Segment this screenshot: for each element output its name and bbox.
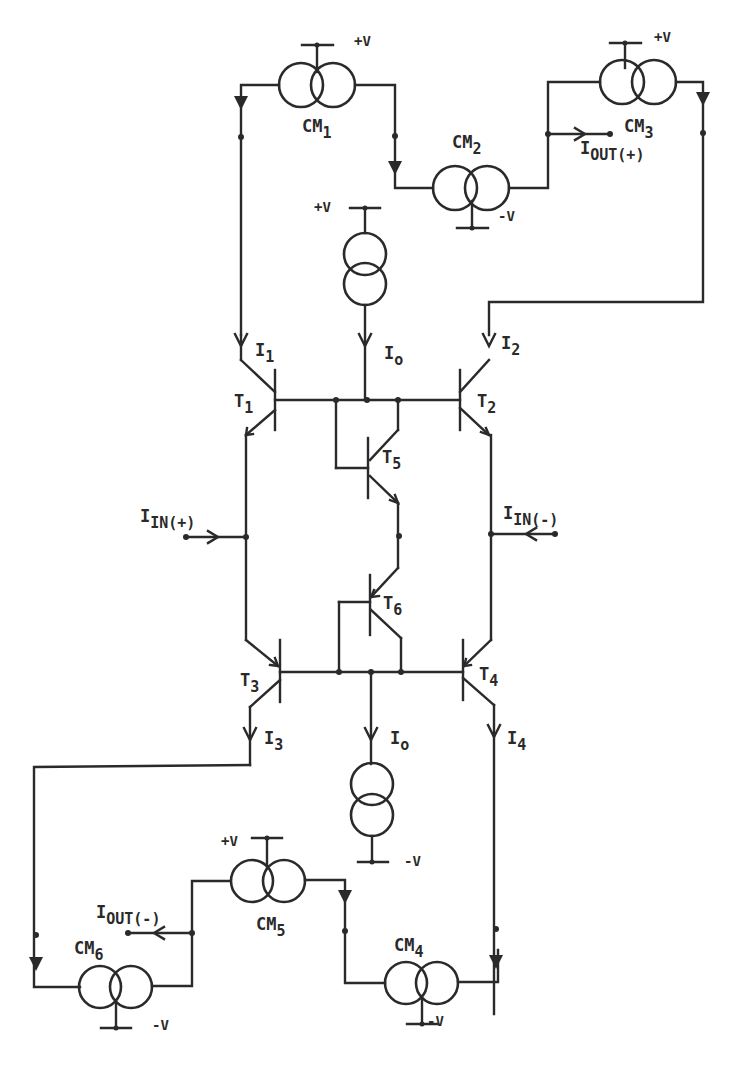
cm5-supply-label: +V — [221, 834, 238, 848]
i2-label: I2 — [501, 335, 520, 358]
t5-label: T5 — [382, 449, 401, 472]
arrow-down-icon — [489, 955, 503, 969]
cm4-symbol — [385, 962, 458, 1027]
wire-cm1-left — [241, 85, 279, 335]
cm1-symbol — [279, 43, 355, 108]
t5-symbol — [336, 400, 402, 568]
bottom-current-source — [351, 672, 393, 865]
i4-label: I4 — [507, 730, 526, 753]
cm5-label: CM5 — [256, 916, 286, 939]
t4-label: T4 — [479, 666, 498, 689]
cm4-supply-label: -V — [427, 1014, 444, 1028]
t6-label: T6 — [383, 595, 402, 618]
t6-symbol — [339, 568, 401, 672]
t1-symbol — [241, 335, 275, 640]
t2-label: T2 — [477, 393, 496, 416]
iin-plus-label: IIN(+) — [140, 508, 195, 531]
io-top-label: Io — [384, 345, 403, 368]
i3-label: I3 — [264, 730, 283, 753]
wire-cm4-t4 — [458, 950, 498, 982]
top-current-source — [344, 206, 386, 401]
cm4-label: CM4 — [394, 937, 424, 960]
iin-minus-label: IIN(-) — [503, 505, 558, 528]
t3-label: T3 — [240, 672, 259, 695]
cm5-symbol — [231, 836, 305, 903]
iout-plus-label: IOUT(+) — [580, 140, 644, 163]
i1-label: I1 — [255, 342, 274, 365]
arrow-down-icon — [388, 161, 402, 175]
cm6-symbol — [79, 966, 152, 1031]
cm1-label: CM1 — [302, 118, 332, 141]
arrow-down-icon — [338, 890, 352, 904]
cm2-label: CM2 — [452, 134, 482, 157]
arrow-down-icon — [696, 92, 710, 106]
wire-t3-cm6 — [34, 765, 250, 987]
io-bottom-label: Io — [390, 730, 409, 753]
cm6-supply-label: -V — [152, 1018, 169, 1032]
cm3-symbol — [600, 41, 676, 105]
bottom-source-supply-label: -V — [404, 854, 421, 868]
cm3-supply-label: +V — [654, 30, 671, 44]
t1-label: T1 — [234, 393, 253, 416]
wire-cm3-t2 — [489, 82, 703, 335]
circuit-diagram: +V -V +V -V +V -V +V -V CM1 CM2 CM3 CM4 … — [0, 0, 743, 1066]
arrow-down-icon — [234, 96, 248, 110]
cm2-supply-label: -V — [498, 209, 515, 223]
arrow-down-icon — [29, 957, 43, 971]
top-source-supply-label: +V — [314, 200, 331, 214]
iout-minus-label: IOUT(-) — [96, 904, 160, 927]
cm3-label: CM3 — [624, 118, 654, 141]
cm1-supply-label: +V — [354, 34, 371, 48]
cm6-label: CM6 — [74, 940, 104, 963]
